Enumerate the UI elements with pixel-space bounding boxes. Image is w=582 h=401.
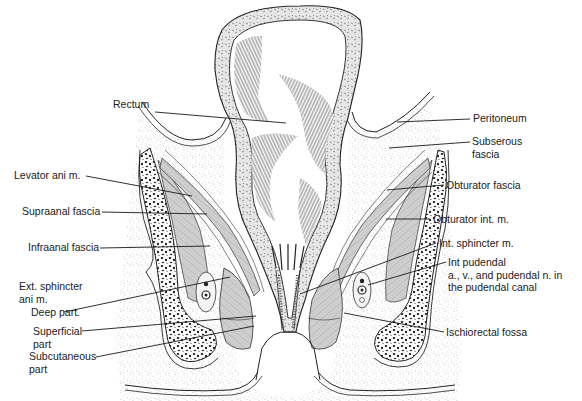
label-subserous-fascia: Subserous fascia <box>472 135 522 160</box>
label-ext-sphincter: Ext. sphincter ani m. <box>19 280 83 305</box>
label-subcutaneous-part: Subcutaneous part <box>29 350 96 375</box>
anatomy-diagram: Rectum Levator ani m. Supraanal fascia I… <box>0 0 582 401</box>
label-peritoneum: Peritoneum <box>473 112 527 125</box>
label-obturator-int: Obturator int. m. <box>433 213 509 226</box>
rectum-anal-canal-illustration <box>0 0 582 401</box>
label-deep-part: Deep part. <box>31 306 80 319</box>
label-infraanal-fascia: Infraanal fascia <box>28 241 99 254</box>
label-ischiorectal-fossa: Ischiorectal fossa <box>446 326 527 339</box>
label-rectum: Rectum <box>113 98 149 111</box>
label-int-pudendal: Int pudendal a., v., and pudendal n. in … <box>448 256 562 294</box>
label-obturator-fascia: Obturator fascia <box>446 179 521 192</box>
label-int-sphincter: Int. sphincter m. <box>439 237 514 250</box>
label-supraanal-fascia: Supraanal fascia <box>22 205 100 218</box>
label-superficial-part: Superficial part <box>33 325 82 350</box>
label-levator-ani: Levator ani m. <box>14 169 81 182</box>
